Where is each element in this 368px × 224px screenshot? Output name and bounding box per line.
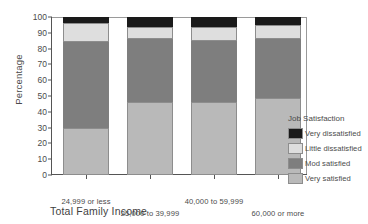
bar-stack bbox=[63, 17, 109, 175]
x-tick-mark bbox=[86, 175, 87, 179]
legend-item: Very dissatisfied bbox=[288, 128, 368, 139]
x-axis-title: Total Family Income bbox=[50, 205, 147, 217]
legend-swatch-icon bbox=[288, 158, 303, 169]
bars-layer bbox=[51, 17, 307, 175]
bar-segment bbox=[191, 17, 237, 26]
bar-segment bbox=[255, 39, 301, 97]
legend-item: Little dissatisfied bbox=[288, 143, 368, 154]
legend-title: Job Satisfaction bbox=[288, 114, 368, 123]
bar-stack bbox=[191, 17, 237, 175]
y-tick-label: 70 bbox=[17, 60, 47, 69]
bar-segment bbox=[191, 27, 237, 41]
y-tick-label: 40 bbox=[17, 108, 47, 117]
legend: Job Satisfaction Very dissatisfiedLittle… bbox=[288, 114, 368, 188]
legend-item: Very satisfied bbox=[288, 173, 368, 184]
y-tick-label: 60 bbox=[17, 76, 47, 85]
x-tick-label: 40,000 to 59,999 bbox=[185, 197, 244, 206]
legend-swatch-icon bbox=[288, 128, 303, 139]
bar-stack bbox=[127, 17, 173, 175]
bar-segment bbox=[191, 102, 237, 175]
legend-items: Very dissatisfiedLittle dissatisfiedMod … bbox=[288, 128, 368, 184]
bar-segment bbox=[255, 25, 301, 39]
bar-segment bbox=[63, 128, 109, 175]
y-tick-label: 30 bbox=[17, 123, 47, 132]
y-tick-label: 10 bbox=[17, 155, 47, 164]
y-tick-label: 90 bbox=[17, 29, 47, 38]
bar-segment bbox=[127, 17, 173, 26]
x-tick-mark bbox=[278, 175, 279, 179]
legend-label: Mod satisfied bbox=[305, 159, 350, 168]
legend-item: Mod satisfied bbox=[288, 158, 368, 169]
y-tick-label: 0 bbox=[17, 171, 47, 180]
stacked-bar-chart: Percentage 0102030405060708090100 24,999… bbox=[0, 0, 368, 224]
bar-segment bbox=[127, 27, 173, 40]
legend-label: Very satisfied bbox=[305, 174, 351, 183]
x-tick-label: 60,000 or more bbox=[252, 209, 305, 218]
legend-label: Very dissatisfied bbox=[305, 129, 361, 138]
bar-segment bbox=[63, 42, 109, 127]
y-tick-label: 80 bbox=[17, 44, 47, 53]
legend-swatch-icon bbox=[288, 173, 303, 184]
y-tick-label: 50 bbox=[17, 92, 47, 101]
plot-area: 0102030405060708090100 24,999 or less25,… bbox=[51, 17, 307, 175]
bar-segment bbox=[127, 39, 173, 102]
y-tick-label: 20 bbox=[17, 139, 47, 148]
bar-segment bbox=[191, 41, 237, 103]
legend-label: Little dissatisfied bbox=[305, 144, 362, 153]
bar-segment bbox=[255, 17, 301, 25]
y-tick-label: 100 bbox=[17, 13, 47, 22]
bar-segment bbox=[63, 23, 109, 42]
bar-segment bbox=[127, 102, 173, 175]
legend-swatch-icon bbox=[288, 143, 303, 154]
x-tick-mark bbox=[214, 175, 215, 179]
x-tick-mark bbox=[150, 175, 151, 179]
